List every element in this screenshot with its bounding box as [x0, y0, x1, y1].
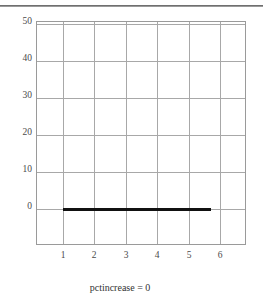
figure-panel: 50 40 30 20 10 0 1 2 3 4 5 6 pctincrease… [0, 0, 263, 308]
y-tick-label: 0 [6, 201, 32, 211]
gridline-x-6 [220, 22, 221, 244]
y-axis-tick-labels: 50 40 30 20 10 0 [0, 21, 32, 245]
y-tick-label: 20 [6, 127, 32, 137]
gridline-y-40 [37, 61, 245, 62]
x-tick-label: 2 [84, 249, 104, 261]
gridline-y-20 [37, 135, 245, 136]
top-horizontal-rule [0, 5, 263, 7]
y-tick-label: 40 [6, 53, 32, 63]
gridline-y-30 [37, 98, 245, 99]
y-tick-label: 50 [6, 16, 32, 26]
gridline-y-50 [37, 24, 245, 25]
figure-caption: pctincrease = 0 [0, 282, 240, 294]
x-tick-label: 4 [147, 249, 167, 261]
x-tick-label: 1 [53, 249, 73, 261]
y-tick-label: 30 [6, 90, 32, 100]
x-tick-label: 3 [116, 249, 136, 261]
plot-area [36, 21, 246, 245]
series-line-pctincrease [63, 208, 211, 211]
x-axis-tick-labels: 1 2 3 4 5 6 [36, 249, 246, 263]
x-tick-label: 5 [179, 249, 199, 261]
gridline-y-10 [37, 172, 245, 173]
x-tick-label: 6 [210, 249, 230, 261]
y-tick-label: 10 [6, 164, 32, 174]
